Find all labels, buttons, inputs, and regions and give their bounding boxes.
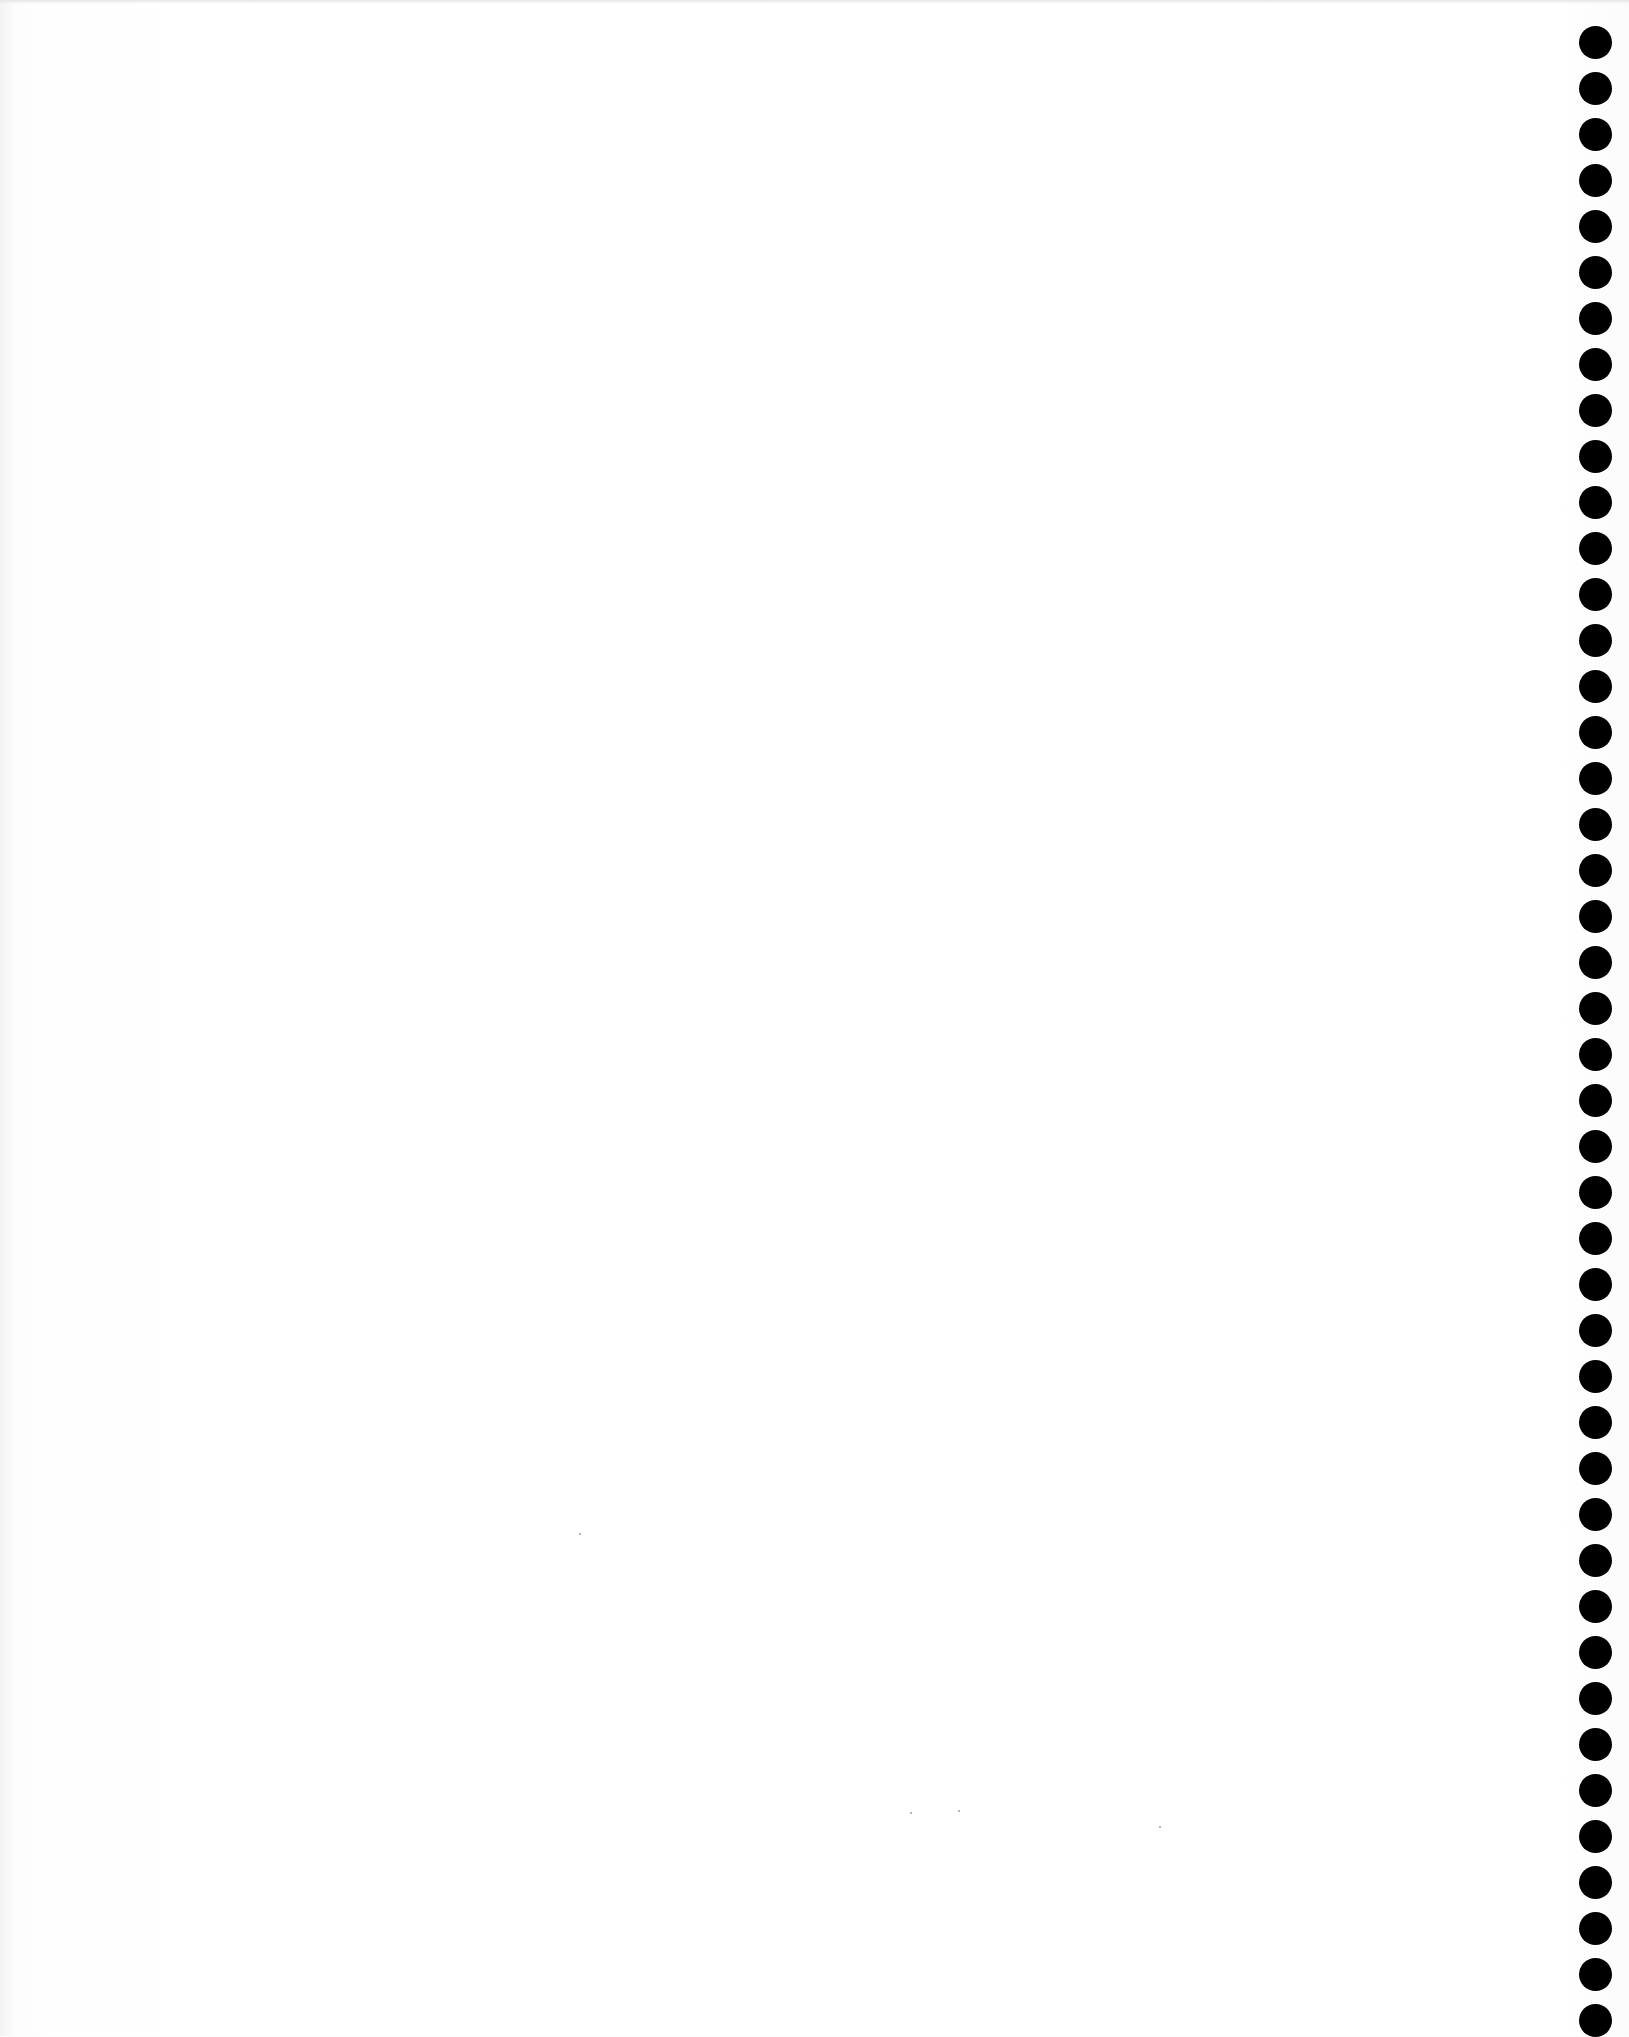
punch-hole [1579,1590,1612,1623]
punch-hole [1579,1912,1612,1945]
punch-hole [1579,1498,1612,1531]
punch-hole [1579,1084,1612,1117]
punch-hole [1579,1038,1612,1071]
scan-speck [579,1533,581,1535]
punch-hole [1579,1268,1612,1301]
punch-hole [1579,164,1612,197]
punch-hole [1579,670,1612,703]
punch-hole [1579,900,1612,933]
punch-hole [1579,1130,1612,1163]
punch-hole [1579,1176,1612,1209]
punch-hole [1579,1222,1612,1255]
punch-hole [1579,2004,1612,2037]
punch-hole [1579,1820,1612,1853]
punch-hole [1579,578,1612,611]
scan-speck [958,1810,960,1812]
punch-hole [1579,440,1612,473]
scan-speck [910,1812,912,1814]
punch-hole [1579,1728,1612,1761]
punch-hole [1579,348,1612,381]
binding-punch-holes [1579,0,1613,2036]
punch-hole [1579,1452,1612,1485]
punch-hole [1579,1406,1612,1439]
punch-hole [1579,808,1612,841]
punch-hole [1579,394,1612,427]
scan-top-edge [0,0,1629,4]
punch-hole [1579,1958,1612,1991]
scan-speck [1159,1826,1161,1828]
punch-hole [1579,762,1612,795]
punch-hole [1579,532,1612,565]
punch-hole [1579,72,1612,105]
punch-hole [1579,1314,1612,1347]
punch-hole [1579,992,1612,1025]
punch-hole [1579,210,1612,243]
punch-hole [1579,1360,1612,1393]
punch-hole [1579,1544,1612,1577]
punch-hole [1579,1682,1612,1715]
punch-hole [1579,486,1612,519]
punch-hole [1579,1636,1612,1669]
punch-hole [1579,624,1612,657]
punch-hole [1579,1774,1612,1807]
punch-hole [1579,1866,1612,1899]
punch-hole [1579,946,1612,979]
punch-hole [1579,854,1612,887]
punch-hole [1579,118,1612,151]
punch-hole [1579,26,1612,59]
punch-hole [1579,716,1612,749]
punch-hole [1579,302,1612,335]
punch-hole [1579,256,1612,289]
